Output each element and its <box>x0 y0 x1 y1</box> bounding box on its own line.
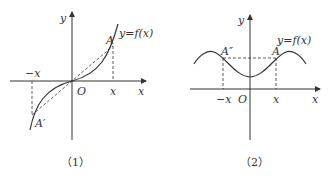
point-a-label-1: A <box>105 34 114 47</box>
y-axis-label-1: y <box>59 12 67 25</box>
pos-x-label-1: x <box>110 85 117 98</box>
x-axis-label-1: x <box>138 85 145 98</box>
odd-function-curve <box>30 24 118 130</box>
neg-x-label-2: −x <box>216 93 232 106</box>
origin-label-1: O <box>77 85 86 98</box>
origin-label-2: O <box>238 93 247 106</box>
point-aprime-label: A′ <box>34 117 46 130</box>
point-adoubleprime-label: A″ <box>220 45 234 58</box>
caption-1: （1） <box>61 156 90 169</box>
figure-2: y y=f(x) A A″ −x O x x （2） <box>190 14 320 169</box>
figure-canvas: y y=f(x) A −x O x x A′ （1） y y=f(x) A A″… <box>0 0 330 182</box>
pos-x-label-2: x <box>273 93 280 106</box>
caption-2: （2） <box>240 156 269 169</box>
point-a-label-2: A <box>271 45 280 58</box>
y-axis-label-2: y <box>237 14 245 27</box>
x-axis-label-2: x <box>312 93 319 106</box>
neg-x-label-1: −x <box>25 67 41 80</box>
figure-1: y y=f(x) A −x O x x A′ （1） <box>10 12 153 169</box>
function-label-2: y=f(x) <box>276 34 311 47</box>
function-label-1: y=f(x) <box>118 27 153 40</box>
